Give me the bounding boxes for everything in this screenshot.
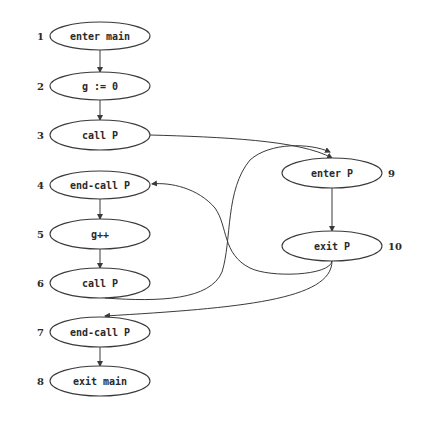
node-label: g := 0 [82, 81, 118, 92]
node-2: g := 02 [37, 72, 150, 100]
node-1: enter main1 [37, 22, 150, 50]
node-label: end-call P [70, 327, 130, 338]
node-number: 3 [37, 130, 44, 141]
node-number: 4 [37, 180, 44, 191]
node-10: exit P10 [282, 231, 402, 261]
node-3: call P3 [37, 120, 150, 150]
node-8: exit main8 [37, 366, 150, 396]
node-label: g++ [91, 229, 109, 240]
nodes-layer: enter main1g := 02call P3end-call P4g++5… [37, 22, 402, 396]
node-label: call P [82, 278, 118, 289]
node-label: exit P [314, 241, 350, 252]
node-label: enter P [311, 168, 353, 179]
node-5: g++5 [37, 219, 150, 249]
node-label: exit main [73, 376, 127, 387]
node-4: end-call P4 [37, 171, 150, 199]
node-number: 7 [37, 327, 44, 338]
icfg-diagram: enter main1g := 02call P3end-call P4g++5… [0, 0, 423, 423]
node-number: 5 [37, 229, 44, 240]
node-6: call P6 [37, 268, 150, 298]
node-number: 1 [37, 31, 44, 42]
edge-3-to-9 [150, 135, 332, 158]
edge-10-to-4 [152, 184, 332, 275]
node-number: 10 [388, 241, 402, 252]
node-number: 2 [37, 81, 44, 92]
node-number: 8 [37, 376, 44, 387]
node-label: end-call P [70, 180, 130, 191]
edges-layer [100, 50, 332, 366]
node-7: end-call P7 [37, 317, 150, 347]
node-number: 9 [388, 168, 395, 179]
node-9: enter P9 [282, 158, 395, 188]
node-label: call P [82, 130, 118, 141]
node-number: 6 [37, 278, 44, 289]
node-label: enter main [70, 31, 130, 42]
